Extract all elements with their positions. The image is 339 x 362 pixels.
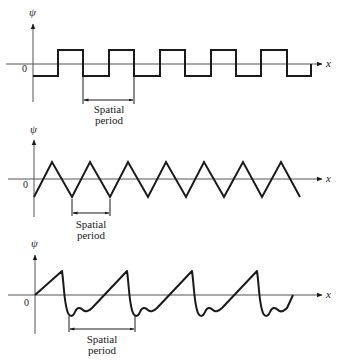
x-axis-label: x (326, 58, 331, 69)
origin-label: 0 (23, 180, 28, 190)
period-label-line2: period (66, 230, 116, 241)
sawtooth-wave-panel (8, 255, 322, 334)
square-wave-panel (6, 24, 322, 104)
psi-axis-label: ψ (29, 7, 36, 18)
sawtooth-wave-curve (35, 271, 293, 316)
square-wave-curve (33, 50, 311, 76)
triangle-wave-panel (8, 140, 322, 217)
psi-axis-label: ψ (31, 238, 38, 249)
waveform-diagram (0, 0, 339, 362)
period-label-line2: period (84, 115, 134, 126)
period-label-line2: period (77, 345, 127, 356)
x-axis-label: x (326, 289, 331, 300)
psi-axis-label: ψ (30, 124, 37, 135)
spatial-period-label: Spatial period (77, 334, 127, 356)
spatial-period-label: Spatial period (66, 219, 116, 241)
origin-label: 0 (22, 64, 27, 74)
spatial-period-label: Spatial period (84, 104, 134, 126)
x-axis-label: x (326, 173, 331, 184)
origin-label: 0 (24, 298, 29, 308)
